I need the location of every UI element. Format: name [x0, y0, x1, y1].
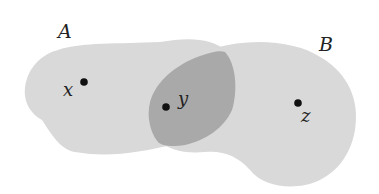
point-x-label: x: [63, 79, 73, 100]
set-b-label: B: [318, 33, 333, 55]
point-x-dot: [80, 78, 88, 86]
set-a-label: A: [56, 20, 72, 42]
point-y-dot: [162, 103, 170, 111]
point-z-label: z: [300, 105, 311, 126]
venn-diagram: A B x y z: [0, 0, 379, 194]
diagram-canvas: A B x y z: [0, 0, 379, 194]
point-y-label: y: [177, 88, 189, 109]
